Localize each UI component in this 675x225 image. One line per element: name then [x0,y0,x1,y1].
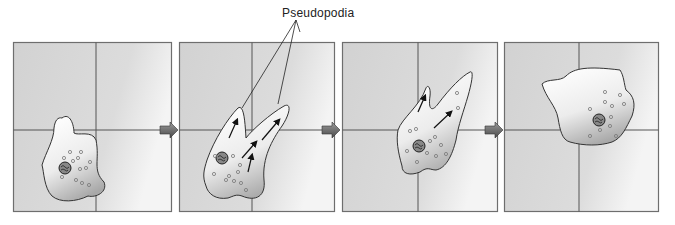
panel-1 [14,43,172,212]
panel-4 [505,43,659,212]
amoeba-movement-diagram [0,0,675,225]
nucleus-icon [413,140,425,152]
panel-2 [180,43,335,212]
nucleus-icon [593,114,605,126]
nucleus-icon [59,162,71,174]
nucleus-icon [216,152,228,164]
panel-3 [343,43,498,212]
